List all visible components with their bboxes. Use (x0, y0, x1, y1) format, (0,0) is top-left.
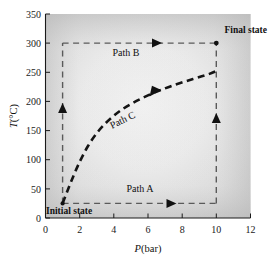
x-tick-label: 10 (211, 224, 221, 235)
y-axis-tick-labels: 0 50 100 150 200 250 300 350 (26, 9, 41, 224)
y-tick-label: 300 (26, 38, 41, 49)
x-tick-label: 8 (180, 224, 185, 235)
x-axis-title: P(bar) (134, 243, 162, 255)
y-tick-label: 50 (31, 184, 41, 195)
y-tick-label: 250 (26, 67, 41, 78)
x-tick-label: 4 (111, 224, 116, 235)
y-tick-label: 150 (26, 125, 41, 136)
chart-canvas: 0 50 100 150 200 250 300 350 0 2 4 6 8 1… (0, 0, 271, 266)
path-b-label: Path B (113, 47, 140, 58)
y-tick-label: 0 (36, 213, 41, 224)
thermodynamics-pt-diagram: 0 50 100 150 200 250 300 350 0 2 4 6 8 1… (0, 0, 271, 266)
y-tick-label: 200 (26, 96, 41, 107)
x-tick-label: 12 (246, 224, 256, 235)
x-axis-tick-labels: 0 2 4 6 8 10 12 (43, 224, 256, 235)
x-tick-label: 0 (43, 224, 48, 235)
y-tick-label: 350 (26, 9, 41, 20)
y-axis-title-units: (°C) (8, 103, 20, 122)
y-axis-title: T(°C) (8, 103, 20, 128)
path-a-label: Path A (127, 183, 155, 194)
x-tick-label: 6 (146, 224, 151, 235)
initial-state-label: Initial state (46, 206, 92, 216)
final-state-dot (214, 41, 219, 46)
final-state-label: Final state (225, 25, 267, 35)
initial-state-dot (61, 201, 65, 205)
x-tick-label: 2 (77, 224, 82, 235)
x-axis-title-units: (bar) (141, 243, 162, 255)
y-tick-label: 100 (26, 154, 41, 165)
